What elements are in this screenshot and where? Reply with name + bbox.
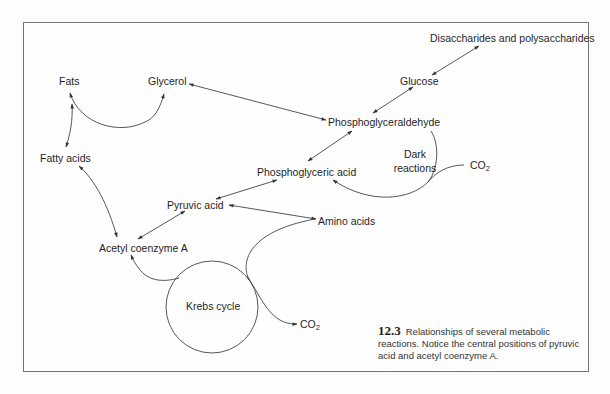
- edge-fats-fattyacids: [66, 104, 72, 147]
- edge-pgal-pga: [308, 131, 352, 161]
- edge-glycerol-pgal: [189, 84, 326, 120]
- co2-bottom-text: CO: [300, 318, 316, 330]
- co2-top-subscript: 2: [486, 164, 490, 173]
- node-glycerol: Glycerol: [148, 75, 187, 87]
- edge-krebs-to-acetylcoa: [131, 255, 179, 280]
- node-co2-top: CO2: [470, 159, 490, 171]
- edge-pga-pyruvic: [216, 180, 277, 199]
- figure-caption-text: Relationships of several metabolic react…: [378, 326, 579, 361]
- figure-number: 12.3: [378, 323, 401, 338]
- co2-bottom-subscript: 2: [316, 323, 320, 332]
- node-dark-reactions: Dark reactions: [393, 148, 437, 174]
- dark-reactions-line1: Dark: [393, 148, 437, 160]
- node-phosphoglyceric-acid: Phosphoglyceric acid: [257, 166, 356, 178]
- edge-disaccharides-glucose: [432, 46, 479, 75]
- node-amino-acids: Amino acids: [318, 215, 375, 227]
- edge-pyruvic-acetylcoa: [138, 211, 185, 239]
- figure-caption: 12.3Relationships of several metabolic r…: [378, 325, 590, 362]
- node-fatty-acids: Fatty acids: [40, 152, 91, 164]
- edge-krebs-co2: [247, 276, 297, 324]
- edge-krebs-amino: [246, 219, 315, 281]
- node-fats: Fats: [59, 75, 79, 87]
- edge-fats-glycerol: [70, 93, 164, 128]
- node-acetyl-coenzyme-a: Acetyl coenzyme A: [99, 242, 188, 254]
- co2-top-text: CO: [470, 159, 486, 171]
- edge-glucose-pgal: [373, 87, 413, 113]
- node-krebs-cycle: Krebs cycle: [186, 300, 240, 312]
- node-co2-bottom: CO2: [300, 318, 320, 330]
- node-phosphoglyceraldehyde: Phosphoglyceraldehyde: [328, 116, 440, 128]
- edge-pyruvic-amino: [229, 205, 316, 219]
- node-glucose: Glucose: [400, 75, 439, 87]
- dark-reactions-line2: reactions: [393, 162, 437, 174]
- edge-fattyacids-acetylcoa: [79, 166, 117, 237]
- node-disaccharides: Disaccharides and polysaccharides: [430, 32, 595, 44]
- node-pyruvic-acid: Pyruvic acid: [167, 199, 224, 211]
